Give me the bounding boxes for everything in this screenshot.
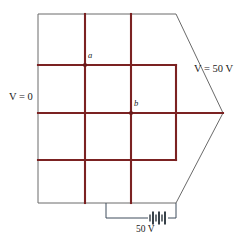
- circuit-diagram-svg: [0, 0, 247, 243]
- battery-symbol: [150, 212, 165, 225]
- node-dot-a: [83, 63, 87, 67]
- right-potential-label: V = 50 V: [194, 64, 233, 75]
- wedge-outline: [176, 14, 223, 203]
- grid-outline: [38, 14, 176, 203]
- left-potential-label: V = 0: [9, 92, 33, 103]
- grid-conductors: [38, 14, 223, 203]
- node-b-label: b: [134, 99, 138, 108]
- wire-from-grid-bottom: [106, 203, 148, 218]
- node-dots: [83, 63, 133, 115]
- node-dot-b: [129, 111, 133, 115]
- circuit-figure: V = 0 V = 50 V a b 50 V: [0, 0, 247, 243]
- wedge-lower-edge: [176, 113, 223, 203]
- battery-voltage-label: 50 V: [136, 225, 155, 235]
- node-a-label: a: [88, 51, 92, 60]
